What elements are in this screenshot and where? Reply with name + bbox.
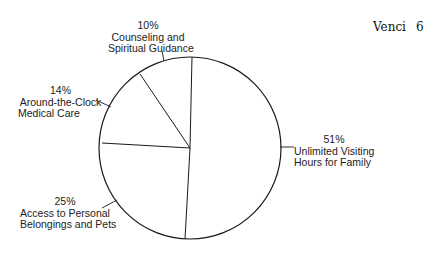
slice-value: 14% [18, 85, 103, 97]
slice-label-line: Hours for Family [294, 157, 374, 169]
slice-label-visiting-hours: 51% Unlimited Visiting Hours for Family [294, 134, 374, 169]
slice-label-line: Spiritual Guidance [108, 43, 188, 55]
slice-value: 51% [294, 134, 374, 146]
slice-label-counseling: 10% Counseling and Spiritual Guidance [108, 20, 188, 55]
slice-label-line: Medical Care [18, 108, 103, 120]
slice-value: 25% [20, 196, 110, 208]
slice-label-line: Belongings and Pets [20, 219, 110, 231]
slice-label-medical-care: 14% Around-the-Clock Medical Care [18, 85, 103, 120]
slice-value: 10% [108, 20, 188, 32]
slice-label-personal-belongings: 25% Access to Personal Belongings and Pe… [20, 196, 110, 231]
